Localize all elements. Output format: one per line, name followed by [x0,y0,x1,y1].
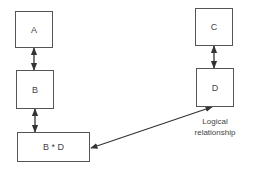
node-a-label: A [31,25,37,35]
node-a: A [15,11,53,48]
annotation-line-2: relationship [183,127,247,138]
node-b-label: B [32,85,38,95]
annotation-line-1: Logical [183,116,247,127]
node-b-star-d: B * D [17,132,90,162]
node-c-label: C [211,22,218,32]
node-b-star-d-label: B * D [43,142,64,152]
node-b: B [16,70,54,109]
node-d: D [196,68,234,107]
node-c: C [195,8,233,46]
logical-relationship-annotation: Logical relationship [183,116,247,138]
node-d-label: D [212,83,219,93]
